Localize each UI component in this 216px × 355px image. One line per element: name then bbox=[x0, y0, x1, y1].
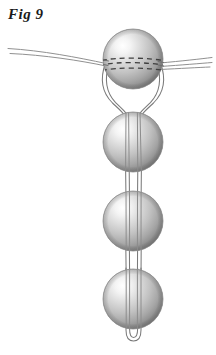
sphere-icon-bead-3 bbox=[103, 191, 163, 251]
figure-container: Fig 9 bbox=[0, 0, 216, 355]
figure-illustration bbox=[0, 0, 216, 355]
sphere-icon-bead-4 bbox=[103, 269, 163, 329]
sphere-icon-bead-2 bbox=[103, 112, 163, 172]
